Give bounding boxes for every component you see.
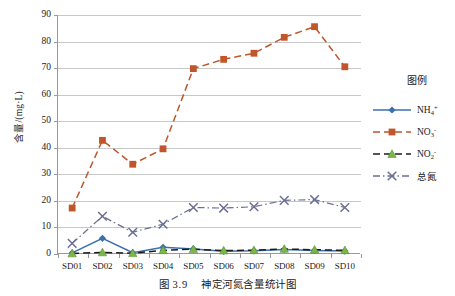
legend: 图例 NH4+NO3-NO2-总氮 [372,72,452,187]
legend-swatch-NH4+ [372,103,412,117]
series-line-NO2- [72,249,345,254]
data-point-cross [310,195,319,204]
data-point-cross [128,228,137,237]
x-tick-mark [240,254,241,258]
data-point-square [251,50,258,57]
legend-swatch-NO2- [372,147,412,161]
y-tick-label: 30 [25,169,51,179]
y-tick-label: 90 [25,10,51,20]
legend-label-总氮: 总氮 [417,169,437,183]
caption-prefix: 图 [159,279,170,290]
data-point-cross [250,202,259,211]
x-tick-mark [300,254,301,258]
data-point-square [99,137,106,144]
data-point-cross [68,239,77,248]
legend-item-总氮[interactable]: 总氮 [372,165,452,187]
x-tick-mark [361,254,362,258]
data-point-square [69,205,76,212]
legend-swatch-总氮 [372,169,412,183]
x-tick-mark [210,254,211,258]
y-tick-label: 70 [25,63,51,73]
legend-title: 图例 [382,72,452,87]
data-point-square [311,23,318,30]
series-line-NH4+ [72,238,345,253]
x-tick-mark [331,254,332,258]
legend-swatch-NO3- [372,125,412,139]
x-tick-mark [270,254,271,258]
data-point-square [220,56,227,63]
y-tick-label: 60 [25,90,51,100]
series-line-NO3- [72,27,345,208]
x-tick-mark [149,254,150,258]
y-axis-title-text: 含量/(mg·L) [14,91,24,143]
data-point-square [281,34,288,41]
data-point-square [389,129,396,136]
series-line-总氮 [72,200,345,244]
x-tick-mark [88,254,89,258]
legend-label-NO2-: NO2- [417,148,436,160]
legend-entries: NH4+NO3-NO2-总氮 [372,99,452,187]
x-tick-mark [58,254,59,258]
data-point-cross [98,212,107,221]
x-tick-label-sd10: SD10 [322,261,368,271]
y-tick-label: 80 [25,37,51,47]
legend-label-NH4+: NH4+ [417,104,438,116]
y-tick-label: 50 [25,116,51,126]
x-tick-mark [119,254,120,258]
figure-caption: 图 3.9 神定河氮含量统计图 [0,276,455,291]
legend-item-NO3-[interactable]: NO3- [372,121,452,143]
data-point-square [190,65,197,72]
data-point-cross [159,220,168,229]
data-point-square [341,63,348,70]
data-point-diamond [388,106,395,113]
x-tick-mark [179,254,180,258]
y-axis-title: 含量/(mg·L) [11,47,25,187]
y-tick-label: 0 [25,249,51,259]
legend-label-NO3-: NO3- [417,126,436,138]
data-point-square [160,145,167,152]
legend-item-NO2-[interactable]: NO2- [372,143,452,165]
data-point-cross [189,203,198,212]
caption-number: 3.9 [173,279,189,290]
legend-item-NH4+[interactable]: NH4+ [372,99,452,121]
caption-text: 神定河氮含量统计图 [201,279,296,290]
figure-chart-nitrogen: 含量/(mg·L) SD01SD02SD03SD04SD05SD06SD07SD… [0,0,455,296]
y-tick-label: 40 [25,143,51,153]
data-point-diamond [99,235,106,242]
series-layer [57,15,360,254]
data-point-square [129,161,136,168]
y-tick-label: 10 [25,222,51,232]
data-point-cross [341,203,350,212]
y-tick-label: 20 [25,196,51,206]
